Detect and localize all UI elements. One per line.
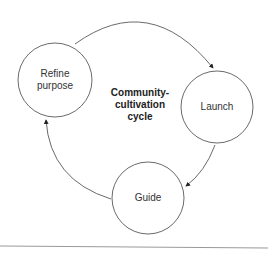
title-line: cycle [100,111,180,123]
cycle-diagram [0,0,268,256]
bottom-divider [0,246,268,248]
label-line: Refine [25,68,85,80]
title-line: cultivation [100,99,180,111]
refine-purpose-label: Refine purpose [25,68,85,92]
cycle-title: Community- cultivation cycle [100,87,180,123]
edge-launch-to-guide [186,145,215,186]
label-line: purpose [25,80,85,92]
edge-guide-to-refine [46,120,111,199]
title-line: Community- [100,87,180,99]
launch-label: Launch [187,101,247,113]
guide-label: Guide [118,192,178,204]
edge-refine-to-launch [75,22,213,68]
